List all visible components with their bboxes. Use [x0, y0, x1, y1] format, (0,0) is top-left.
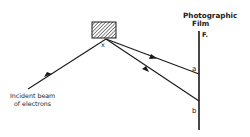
incident-label-line1: Incident beam	[10, 92, 55, 99]
point-b-label: b	[192, 107, 197, 115]
electron-diffraction-diagram: Photographic Film F. x a b Incident beam…	[0, 0, 250, 137]
crystal-block	[92, 22, 116, 38]
point-a-label: a	[192, 65, 196, 73]
ray-a-arrow-icon	[149, 54, 157, 59]
incident-beam	[28, 39, 106, 89]
film-marker-label: F.	[202, 31, 208, 39]
diffracted-ray-b	[106, 39, 199, 101]
crystal-point-label: x	[101, 41, 105, 49]
incident-label-line2: of electrons	[14, 100, 51, 107]
film-title-line2: Film	[192, 19, 209, 28]
